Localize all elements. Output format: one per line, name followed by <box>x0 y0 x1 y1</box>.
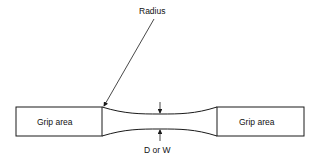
specimen-diagram: Radius Grip area Grip area D or W <box>0 0 321 162</box>
radius-label: Radius <box>139 6 165 16</box>
grip-right-label: Grip area <box>239 117 275 127</box>
grip-left-label: Grip area <box>37 117 73 127</box>
radius-leader-arrow <box>104 19 154 106</box>
gauge-bottom-edge <box>102 129 217 136</box>
dimension-label: D or W <box>144 145 170 155</box>
gauge-top-edge <box>102 107 217 114</box>
